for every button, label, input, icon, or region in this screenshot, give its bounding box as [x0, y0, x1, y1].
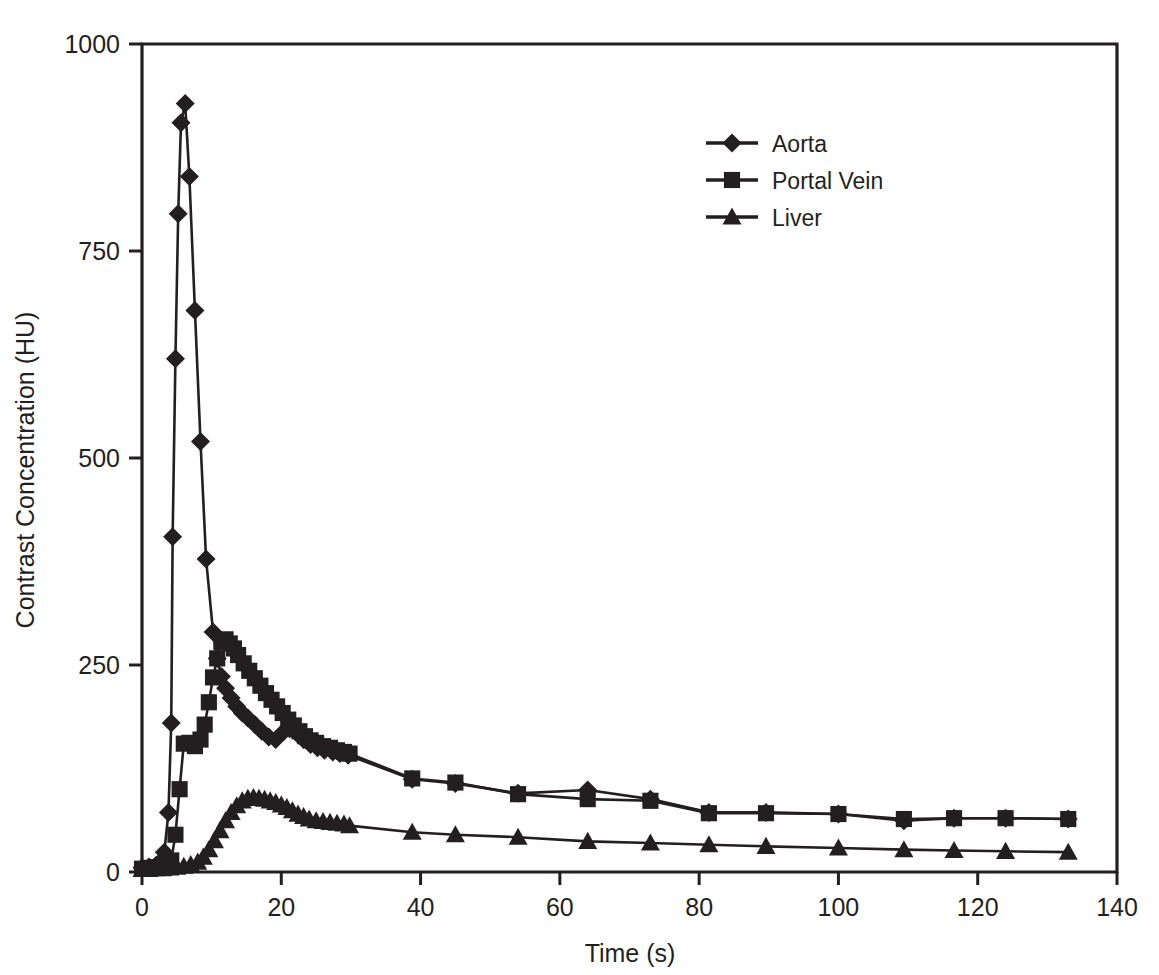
legend-marker-square-icon [724, 172, 740, 188]
data-point-marker [163, 527, 182, 546]
data-point-marker [642, 793, 658, 809]
x-tick-label: 120 [957, 893, 999, 921]
data-point-marker [162, 713, 181, 732]
data-point-marker [167, 827, 183, 843]
x-tick-label: 80 [685, 893, 713, 921]
y-tick-label: 0 [106, 858, 120, 886]
data-point-marker [758, 805, 774, 821]
plot-frame [142, 44, 1117, 872]
data-point-marker [580, 791, 596, 807]
x-tick-label: 100 [818, 893, 860, 921]
data-point-marker [176, 94, 195, 113]
y-tick-label: 750 [78, 237, 120, 265]
data-point-marker [159, 803, 178, 822]
series-aorta [133, 94, 1078, 877]
series-portal-vein [134, 631, 1076, 877]
data-point-marker [166, 349, 185, 368]
y-tick-label: 1000 [64, 30, 120, 58]
x-tick-label: 20 [267, 893, 295, 921]
data-point-marker [341, 746, 357, 762]
data-point-marker [447, 775, 463, 791]
data-point-marker [1060, 811, 1076, 827]
data-point-marker [197, 717, 213, 733]
x-tick-label: 0 [135, 893, 149, 921]
chart-legend: AortaPortal VeinLiver [706, 131, 883, 231]
y-axis: 02505007501000 [64, 30, 142, 886]
x-axis: 020406080100120140 [135, 872, 1138, 921]
data-series-layer [133, 94, 1078, 877]
x-tick-label: 140 [1096, 893, 1138, 921]
data-point-marker [205, 669, 221, 685]
data-point-marker [191, 432, 210, 451]
data-point-marker [510, 786, 526, 802]
data-point-marker [209, 650, 225, 666]
x-tick-label: 40 [407, 893, 435, 921]
data-point-marker [192, 731, 208, 747]
legend-item-liver: Liver [706, 205, 822, 231]
data-point-marker [830, 806, 846, 822]
data-point-marker [185, 301, 204, 320]
x-tick-label: 60 [546, 893, 574, 921]
data-point-marker [180, 167, 199, 186]
data-point-marker [896, 811, 912, 827]
data-point-marker [701, 805, 717, 821]
legend-item-portal-vein: Portal Vein [706, 168, 883, 194]
data-point-marker [404, 770, 420, 786]
legend-item-aorta: Aorta [706, 131, 827, 157]
chart-figure: 02505007501000 020406080100120140 AortaP… [0, 0, 1159, 975]
contrast-concentration-line-chart: 02505007501000 020406080100120140 AortaP… [0, 0, 1159, 975]
y-axis-title: Contrast Concentration (HU) [11, 312, 39, 629]
series-liver [133, 788, 1078, 877]
legend-label: Portal Vein [772, 168, 883, 194]
legend-marker-diamond-icon [723, 134, 742, 153]
legend-label: Aorta [772, 131, 827, 157]
x-axis-title: Time (s) [585, 939, 676, 967]
data-point-marker [997, 810, 1013, 826]
data-point-marker [197, 550, 216, 569]
y-tick-label: 500 [78, 444, 120, 472]
data-point-marker [201, 694, 217, 710]
y-tick-label: 250 [78, 651, 120, 679]
data-point-marker [169, 204, 188, 223]
data-point-marker [172, 781, 188, 797]
data-point-marker [946, 810, 962, 826]
legend-label: Liver [772, 205, 822, 231]
